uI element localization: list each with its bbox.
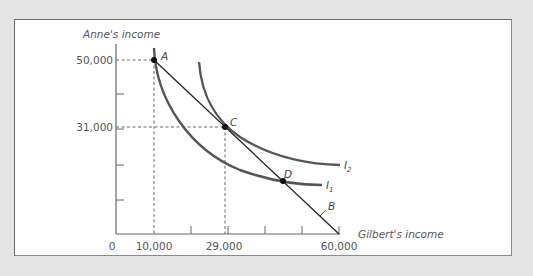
x-tick-label-29000: 29,000 bbox=[206, 240, 243, 252]
indifference-curve-i2 bbox=[199, 62, 340, 165]
chart-svg: A C D B I2 I1 Anne's income Gilbert's in… bbox=[0, 0, 533, 276]
label-i2: I2 bbox=[344, 159, 352, 174]
x-tick-label-10000: 10,000 bbox=[136, 240, 173, 252]
indifference-curve-i1 bbox=[154, 48, 322, 185]
x-tick-label-0: 0 bbox=[109, 240, 116, 252]
guide-lines bbox=[116, 60, 225, 234]
x-axis-label: Gilbert's income bbox=[358, 228, 444, 240]
y-ticks bbox=[116, 94, 124, 200]
label-a: A bbox=[160, 50, 168, 62]
y-tick-label-31000: 31,000 bbox=[76, 121, 113, 133]
x-tick-label-60000: 60,000 bbox=[321, 240, 358, 252]
line-b-label-leader bbox=[320, 210, 326, 216]
label-i1: I1 bbox=[326, 179, 334, 194]
y-tick-label-50000: 50,000 bbox=[76, 54, 113, 66]
label-c: C bbox=[230, 116, 238, 128]
point-a bbox=[151, 57, 157, 63]
y-axis-label: Anne's income bbox=[82, 28, 160, 40]
point-c bbox=[222, 124, 228, 130]
x-ticks bbox=[191, 226, 339, 234]
label-b: B bbox=[328, 200, 335, 212]
label-d: D bbox=[284, 168, 292, 180]
line-b bbox=[154, 60, 339, 234]
